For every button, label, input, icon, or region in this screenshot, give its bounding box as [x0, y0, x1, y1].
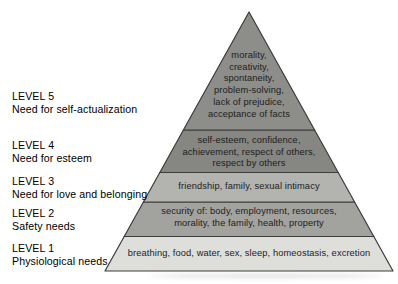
- band-text-level-4: self-esteem, confidence, achievement, re…: [149, 135, 349, 170]
- level-5-line-5: lack of prejudice,: [174, 97, 324, 109]
- level-1-need: Physiological needs: [12, 255, 108, 268]
- level-5-title: LEVEL 5: [12, 90, 137, 103]
- level-5-line-3: spontaneity,: [174, 73, 324, 85]
- level-4-title: LEVEL 4: [12, 139, 92, 152]
- level-5-line-4: problem-solving,: [174, 85, 324, 97]
- level-5-line-1: morality,: [174, 50, 324, 62]
- level-1-line-1: breathing, food, water, sex, sleep, home…: [109, 248, 389, 260]
- level-2-need: Safety needs: [12, 220, 75, 233]
- band-text-level-3: friendship, family, sexual intimacy: [144, 181, 354, 193]
- level-5-line-2: creativity,: [174, 62, 324, 74]
- level-4-line-2: achievement, respect of others,: [149, 147, 349, 159]
- level-4-line-1: self-esteem, confidence,: [149, 135, 349, 147]
- label-level-3: LEVEL 3 Need for love and belonging: [12, 175, 147, 201]
- band-text-level-1: breathing, food, water, sex, sleep, home…: [109, 248, 389, 260]
- level-2-line-1: security of: body, employment, resources…: [129, 206, 369, 218]
- level-2-title: LEVEL 2: [12, 207, 75, 220]
- level-3-title: LEVEL 3: [12, 175, 147, 188]
- level-2-line-2: morality, the family, health, property: [129, 218, 369, 230]
- level-5-need: Need for self-actualization: [12, 103, 137, 116]
- level-4-line-3: respect by others: [149, 158, 349, 170]
- level-3-need: Need for love and belonging: [12, 188, 147, 201]
- label-level-1: LEVEL 1 Physiological needs: [12, 242, 108, 268]
- level-1-title: LEVEL 1: [12, 242, 108, 255]
- level-4-need: Need for esteem: [12, 152, 92, 165]
- pyramid-base-shadow: [150, 274, 382, 278]
- level-3-line-1: friendship, family, sexual intimacy: [144, 181, 354, 193]
- level-5-line-6: acceptance of facts: [174, 109, 324, 121]
- label-level-4: LEVEL 4 Need for esteem: [12, 139, 92, 165]
- maslow-pyramid-diagram: LEVEL 5 Need for self-actualization LEVE…: [0, 0, 398, 284]
- label-level-5: LEVEL 5 Need for self-actualization: [12, 90, 137, 116]
- label-level-2: LEVEL 2 Safety needs: [12, 207, 75, 233]
- band-text-level-5: morality, creativity, spontaneity, probl…: [174, 50, 324, 120]
- band-text-level-2: security of: body, employment, resources…: [129, 206, 369, 229]
